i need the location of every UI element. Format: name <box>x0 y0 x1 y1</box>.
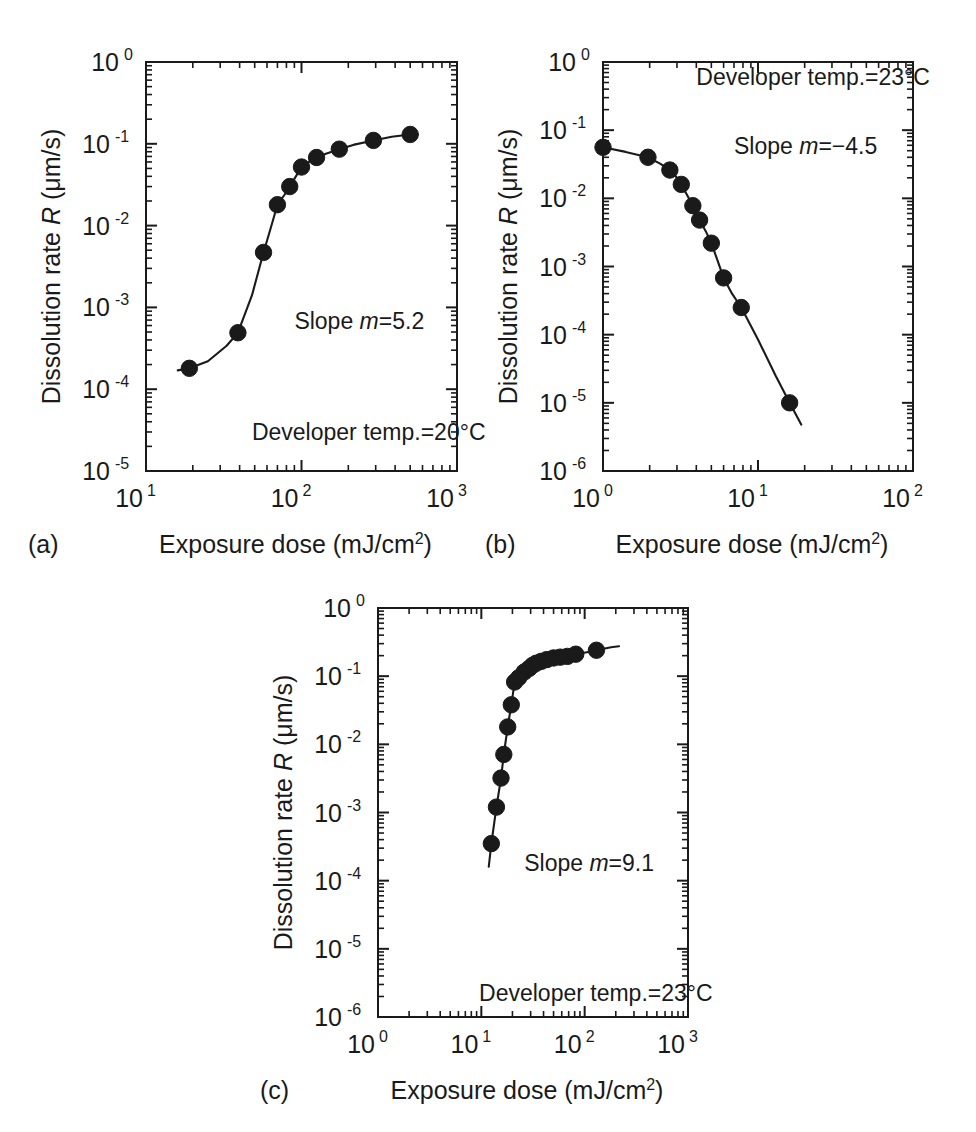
developer-temp-annotation: Developer temp.=20°C <box>252 419 486 445</box>
y-tick-exponent: 0 <box>124 46 133 63</box>
developer-temp-annotation: Developer temp.=23°C <box>479 980 713 1006</box>
x-tick-label: 10 <box>115 484 143 512</box>
data-point <box>365 132 381 148</box>
panel-a: 10110210310010-110-210-310-410-5Exposure… <box>0 0 490 560</box>
slope-annotation: Slope m=−4.5 <box>734 133 877 159</box>
y-tick-label: 10 <box>91 48 119 76</box>
data-point <box>255 244 271 260</box>
y-axis-title-main: Dissolution rate <box>37 225 65 404</box>
data-point <box>402 126 418 142</box>
data-point <box>703 235 719 251</box>
data-point <box>715 270 731 286</box>
y-tick-label: 10 <box>82 375 110 403</box>
slope-annotation-value: =9.1 <box>609 850 654 876</box>
y-axis-title-symbol: R <box>37 207 65 225</box>
y-axis-title-text: Dissolution rate R (μm/s) <box>37 129 65 405</box>
y-tick-label: 10 <box>314 935 342 963</box>
y-tick-label: 10 <box>82 293 110 321</box>
y-tick-label: 10 <box>539 184 567 212</box>
y-tick-exponent: -5 <box>572 387 586 404</box>
y-tick-exponent: -3 <box>115 291 129 308</box>
slope-annotation-symbol: m <box>360 308 379 334</box>
y-tick-exponent: -2 <box>572 182 586 199</box>
y-tick-label: 10 <box>548 48 576 76</box>
x-tick-label: 10 <box>347 1030 375 1058</box>
panel-a-plot: 10110210310010-110-210-310-410-5Exposure… <box>0 0 490 560</box>
data-point <box>181 360 197 376</box>
slope-annotation: Slope m=9.1 <box>524 850 654 876</box>
plot-frame <box>603 62 913 471</box>
data-point <box>691 212 707 228</box>
x-tick-label: 10 <box>554 1030 582 1058</box>
y-axis-title-main: Dissolution rate <box>494 225 522 404</box>
panel-b-plot: 10010110210010-110-210-310-410-510-6Expo… <box>460 0 976 560</box>
y-tick-label: 10 <box>314 799 342 827</box>
y-tick-label: 10 <box>539 457 567 485</box>
x-tick-label: 10 <box>657 1030 685 1058</box>
y-axis-title-text: Dissolution rate R (μm/s) <box>494 129 522 405</box>
y-axis-title-text: Dissolution rate R (μm/s) <box>269 675 297 951</box>
y-tick-label: 10 <box>82 212 110 240</box>
data-point <box>662 162 678 178</box>
y-tick-exponent: -2 <box>347 728 361 745</box>
y-tick-label: 10 <box>539 253 567 281</box>
y-axis-title-units: (μm/s) <box>494 129 522 207</box>
panel-b: 10010110210010-110-210-310-410-510-6Expo… <box>460 0 976 560</box>
x-tick-label: 10 <box>271 484 299 512</box>
data-point <box>496 746 512 762</box>
data-point <box>493 770 509 786</box>
y-tick-label: 10 <box>82 130 110 158</box>
data-point <box>269 197 285 213</box>
slope-annotation-label: Slope <box>294 308 359 334</box>
x-axis-title-text: Exposure dose (mJ/cm2) <box>391 1076 664 1104</box>
x-tick-exponent: 1 <box>147 482 156 499</box>
slope-annotation-label: Slope <box>734 133 799 159</box>
figure-root: 10110210310010-110-210-310-410-5Exposure… <box>0 0 976 1132</box>
y-tick-label: 10 <box>314 730 342 758</box>
data-point <box>588 642 604 658</box>
data-point <box>331 141 347 157</box>
y-tick-label: 10 <box>539 116 567 144</box>
panel-c: 10010110210310010-110-210-310-410-510-6E… <box>230 546 750 1132</box>
y-tick-exponent: -4 <box>572 319 586 336</box>
y-tick-exponent: -1 <box>115 128 129 145</box>
x-tick-exponent: 2 <box>914 482 923 499</box>
y-tick-exponent: 0 <box>356 592 365 609</box>
y-axis-title-symbol: R <box>494 207 522 225</box>
developer-temp-annotation: Developer temp.=23°C <box>696 64 930 90</box>
x-tick-exponent: 0 <box>379 1028 388 1045</box>
slope-annotation-label: Slope <box>524 850 589 876</box>
x-axis-title-exponent: 2 <box>646 1076 655 1093</box>
y-tick-exponent: -4 <box>347 865 361 882</box>
x-tick-exponent: 3 <box>689 1028 698 1045</box>
y-tick-label: 10 <box>314 1003 342 1031</box>
x-axis-title-exponent: 2 <box>871 530 880 547</box>
panel-c-plot: 10010110210310010-110-210-310-410-510-6E… <box>230 546 750 1132</box>
x-axis-title: Exposure dose (mJ/cm2) <box>391 1076 664 1104</box>
data-point <box>500 719 516 735</box>
x-tick-exponent: 1 <box>482 1028 491 1045</box>
data-point <box>293 159 309 175</box>
data-point <box>488 799 504 815</box>
y-tick-label: 10 <box>539 321 567 349</box>
data-point <box>781 395 797 411</box>
data-point <box>503 697 519 713</box>
y-axis-title-units: (μm/s) <box>37 129 65 207</box>
fit-curve <box>603 147 801 424</box>
y-tick-exponent: -6 <box>347 1001 361 1018</box>
x-tick-exponent: 0 <box>604 482 613 499</box>
y-axis-title-units: (μm/s) <box>269 675 297 753</box>
y-tick-exponent: -6 <box>572 455 586 472</box>
y-tick-label: 10 <box>314 662 342 690</box>
y-tick-label: 10 <box>82 457 110 485</box>
slope-annotation-value: =−4.5 <box>818 133 877 159</box>
data-point <box>595 139 611 155</box>
y-tick-exponent: -3 <box>572 251 586 268</box>
y-tick-exponent: -3 <box>347 797 361 814</box>
plot-frame <box>146 62 457 471</box>
slope-annotation-symbol: m <box>589 850 608 876</box>
data-point <box>282 178 298 194</box>
slope-annotation: Slope m=5.2 <box>294 308 424 334</box>
x-axis-title-tail: ) <box>880 530 888 558</box>
data-point <box>673 176 689 192</box>
